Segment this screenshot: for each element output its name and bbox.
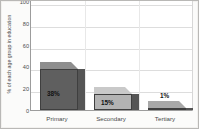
bar-primary: 38% xyxy=(40,69,78,110)
bar-secondary-value-label: 15% xyxy=(101,99,114,106)
category-separator xyxy=(139,0,140,110)
bar-secondary-top xyxy=(94,87,132,94)
gridline xyxy=(31,49,192,50)
plot-area: 38% 15% 1% xyxy=(30,0,193,111)
bar-primary-value-label: 38% xyxy=(47,90,60,97)
bar-primary-top xyxy=(40,62,78,69)
bar-primary-side xyxy=(78,69,85,110)
bar-tertiary-front xyxy=(148,108,186,111)
y-tick-label: 60 xyxy=(12,43,29,49)
gridline xyxy=(31,5,192,6)
bar-tertiary: 1% xyxy=(148,108,186,111)
y-tick-label: 40 xyxy=(12,64,29,70)
bar-secondary-side xyxy=(132,94,139,110)
y-tick-label: 100 xyxy=(12,0,29,5)
bar-tertiary-value-label: 1% xyxy=(160,92,169,99)
category-separator xyxy=(85,0,86,110)
chart-figure: % of each age group in education 100 80 … xyxy=(0,0,199,129)
bar-tertiary-top xyxy=(148,101,186,108)
x-label-primary: Primary xyxy=(30,115,84,122)
y-tick-label: 80 xyxy=(12,21,29,27)
gridline xyxy=(31,27,192,28)
x-label-secondary: Secondary xyxy=(84,115,138,122)
y-tick-label: 20 xyxy=(12,86,29,92)
bar-tertiary-side xyxy=(186,108,193,111)
y-axis-tick-labels: 100 80 60 40 20 0 xyxy=(12,0,29,111)
x-axis-category-labels: Primary Secondary Tertiary xyxy=(30,114,193,128)
y-tick-label: 0 xyxy=(12,108,29,114)
x-label-tertiary: Tertiary xyxy=(138,115,192,122)
bar-secondary: 15% xyxy=(94,94,132,110)
